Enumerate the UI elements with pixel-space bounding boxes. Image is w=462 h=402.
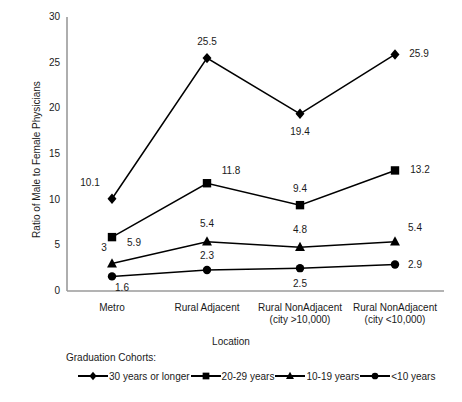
x-tick-3: Rural NonAdjacent(city <10,000) <box>353 302 437 326</box>
data-label: 2.9 <box>408 260 422 270</box>
legend-label: 10-19 years <box>306 371 359 382</box>
data-series-layer <box>107 49 400 280</box>
x-tick-line: (city >10,000) <box>258 314 342 326</box>
data-label: 3 <box>101 243 107 253</box>
legend: 30 years or longer20-29 years10-19 years… <box>78 370 436 382</box>
series-line <box>112 242 395 264</box>
data-point <box>296 109 305 119</box>
x-tick-line: Metro <box>99 302 125 314</box>
triangle-marker-icon <box>275 370 305 382</box>
data-label: 1.6 <box>115 283 129 293</box>
data-label: 11.8 <box>222 166 241 176</box>
data-point <box>391 166 399 174</box>
circle-marker-icon <box>360 370 390 382</box>
data-point <box>202 236 212 245</box>
data-label: 5.9 <box>127 238 141 248</box>
series-3 <box>108 260 399 280</box>
x-tick-line: Rural NonAdjacent <box>258 302 342 314</box>
legend-label: 20-29 years <box>222 371 275 382</box>
data-label: 2.3 <box>200 251 214 261</box>
legend-item-0[interactable]: 30 years or longer <box>78 370 191 382</box>
axes <box>67 17 444 291</box>
data-label: 25.9 <box>409 49 428 59</box>
square-marker-icon <box>191 370 221 382</box>
x-tick-2: Rural NonAdjacent(city >10,000) <box>258 302 342 326</box>
data-label: 9.4 <box>293 184 307 194</box>
legend-label: 30 years or longer <box>109 371 190 382</box>
legend-label: <10 years <box>391 371 435 382</box>
data-label: 25.5 <box>197 37 216 47</box>
data-point <box>203 179 211 187</box>
data-point <box>391 260 399 268</box>
data-point <box>108 233 116 241</box>
data-label: 5.4 <box>200 219 214 229</box>
data-label: 2.5 <box>293 279 307 289</box>
legend-item-2[interactable]: 10-19 years <box>275 370 360 382</box>
series-line <box>112 265 395 277</box>
legend-item-3[interactable]: <10 years <box>360 370 436 382</box>
data-label: 5.4 <box>408 223 422 233</box>
x-tick-0: Metro <box>99 302 125 314</box>
x-tick-line: (city <10,000) <box>353 314 437 326</box>
data-label: 10.1 <box>80 178 99 188</box>
x-tick-1: Rural Adjacent <box>174 302 239 314</box>
data-point <box>391 49 400 59</box>
data-point <box>296 201 304 209</box>
x-tick-line: Rural NonAdjacent <box>353 302 437 314</box>
series-1 <box>108 166 399 241</box>
x-axis-title: Location <box>0 336 462 347</box>
data-label: 4.8 <box>293 225 307 235</box>
data-point <box>108 272 116 280</box>
data-point <box>296 264 304 272</box>
series-2 <box>107 236 400 267</box>
legend-title: Graduation Cohorts: <box>66 352 156 363</box>
data-point <box>390 236 400 245</box>
chart-canvas: Ratio of Male to Female Physicians 05101… <box>0 0 462 402</box>
data-point <box>203 266 211 274</box>
series-line <box>112 170 395 237</box>
data-label: 13.2 <box>410 165 429 175</box>
series-line <box>112 54 395 198</box>
legend-item-1[interactable]: 20-29 years <box>191 370 276 382</box>
series-0 <box>108 49 400 204</box>
x-tick-line: Rural Adjacent <box>174 302 239 314</box>
data-label: 19.4 <box>290 127 309 137</box>
diamond-marker-icon <box>78 370 108 382</box>
